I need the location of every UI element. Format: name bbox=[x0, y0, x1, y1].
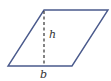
parallelogram-outline bbox=[8, 10, 108, 66]
parallelogram-diagram: h b bbox=[0, 0, 111, 81]
height-label: h bbox=[49, 28, 56, 41]
base-label: b bbox=[40, 68, 47, 81]
